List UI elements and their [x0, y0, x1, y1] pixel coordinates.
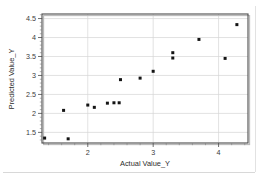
data-point	[119, 78, 122, 81]
data-point	[118, 101, 121, 104]
data-point	[43, 137, 46, 140]
y-axis-tick-labels: 1.522.533.544.5	[26, 14, 36, 137]
data-point	[86, 104, 89, 107]
data-point	[197, 38, 200, 41]
x-axis-tick-labels: 234	[86, 148, 221, 157]
scatter-plot-figure: 234 1.522.533.544.5 Actual Value_Y Predi…	[0, 0, 263, 178]
data-point	[224, 57, 227, 60]
y-tick-label: 2.5	[26, 90, 36, 99]
x-tick-label: 4	[217, 148, 221, 157]
y-tick-label: 3.5	[26, 52, 36, 61]
x-axis-title: Actual Value_Y	[120, 159, 170, 168]
data-point	[62, 109, 65, 112]
bottom-divider	[3, 172, 255, 173]
right-divider	[255, 6, 256, 172]
scatter-plot-canvas: 234 1.522.533.544.5 Actual Value_Y Predi…	[0, 0, 263, 178]
y-tick-label: 3	[32, 71, 36, 80]
y-tick-label: 4	[32, 33, 36, 42]
y-tick-label: 1.5	[26, 128, 36, 137]
y-axis-tickmarks	[38, 15, 42, 140]
x-tick-label: 2	[86, 148, 90, 157]
data-point	[93, 106, 96, 109]
plot-background	[42, 14, 248, 143]
data-point	[139, 77, 142, 80]
data-point	[171, 51, 174, 54]
data-point	[106, 102, 109, 105]
data-point	[112, 101, 115, 104]
y-tick-label: 4.5	[26, 14, 36, 23]
data-point	[171, 57, 174, 60]
y-tick-label: 2	[32, 109, 36, 118]
data-point	[152, 70, 155, 73]
y-axis-title: Predicted Value_Y	[7, 49, 16, 110]
data-point	[67, 137, 70, 140]
x-tick-label: 3	[151, 148, 155, 157]
data-point	[235, 23, 238, 26]
